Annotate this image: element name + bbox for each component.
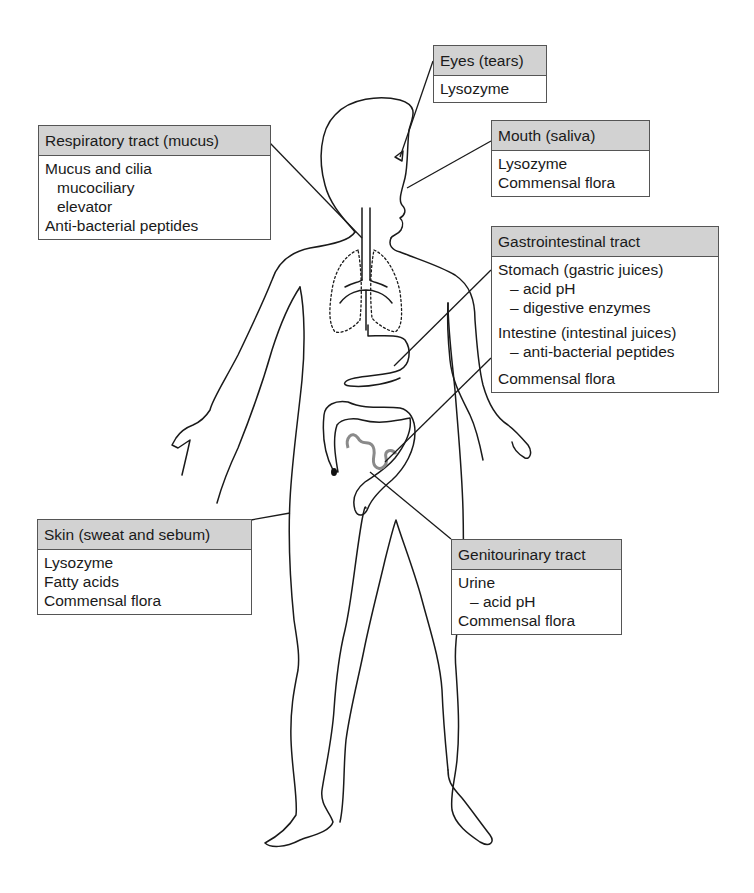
leader-mouth (407, 141, 491, 188)
leader-eyes (400, 61, 433, 157)
body-left-outline (172, 232, 355, 475)
label-box-gastrointestinal: Gastrointestinal tract Stomach (gastric … (491, 226, 719, 393)
label-box-mouth: Mouth (saliva) Lysozyme Commensal flora (491, 120, 650, 197)
label-box-respiratory: Respiratory tract (mucus) Mucus and cili… (38, 125, 271, 240)
label-item: elevator (45, 197, 264, 216)
head-outline (321, 98, 413, 238)
label-item: – acid pH (458, 592, 615, 611)
label-header-eyes: Eyes (tears) (434, 46, 546, 76)
label-item: Lysozyme (498, 154, 643, 173)
appendix (331, 468, 337, 476)
label-item: Mucus and cilia (45, 159, 264, 178)
label-item: Urine (458, 573, 615, 592)
label-item: – anti-bacterial peptides (498, 342, 712, 361)
trachea (362, 208, 370, 280)
label-item: Lysozyme (440, 79, 540, 98)
small-intestine (347, 435, 396, 469)
leader-genitourinary (370, 472, 451, 539)
inner-right-leg (340, 520, 448, 822)
stomach (345, 325, 410, 386)
label-header-respiratory: Respiratory tract (mucus) (39, 126, 270, 156)
label-header-gastrointestinal: Gastrointestinal tract (492, 227, 718, 257)
label-item: – digestive enzymes (498, 298, 712, 317)
label-item: Commensal flora (498, 369, 712, 388)
label-box-eyes: Eyes (tears) Lysozyme (433, 45, 547, 103)
bronchi (340, 280, 392, 330)
label-item: Commensal flora (458, 611, 615, 630)
leader-intestine (385, 358, 491, 462)
left-inner-arm (217, 287, 300, 503)
label-item: Commensal flora (498, 173, 643, 192)
leader-respiratory (270, 143, 362, 238)
label-item: – acid pH (498, 279, 712, 298)
left-flank-leg (265, 287, 366, 846)
label-header-mouth: Mouth (saliva) (492, 121, 649, 151)
leader-skin (251, 513, 290, 520)
label-item: Commensal flora (44, 591, 245, 610)
label-item: mucociliary (45, 178, 264, 197)
label-header-skin: Skin (sweat and sebum) (38, 520, 251, 550)
label-item: Stomach (gastric juices) (498, 260, 712, 279)
right-inner-arm (448, 303, 483, 460)
label-header-genitourinary: Genitourinary tract (452, 540, 621, 570)
label-item: Fatty acids (44, 572, 245, 591)
label-box-skin: Skin (sweat and sebum) Lysozyme Fatty ac… (37, 519, 252, 615)
label-item: Anti-bacterial peptides (45, 216, 264, 235)
leader-stomach (394, 270, 491, 366)
label-box-genitourinary: Genitourinary tract Urine – acid pH Comm… (451, 539, 622, 635)
label-item: Lysozyme (44, 553, 245, 572)
label-item: Intestine (intestinal juices) (498, 323, 712, 342)
